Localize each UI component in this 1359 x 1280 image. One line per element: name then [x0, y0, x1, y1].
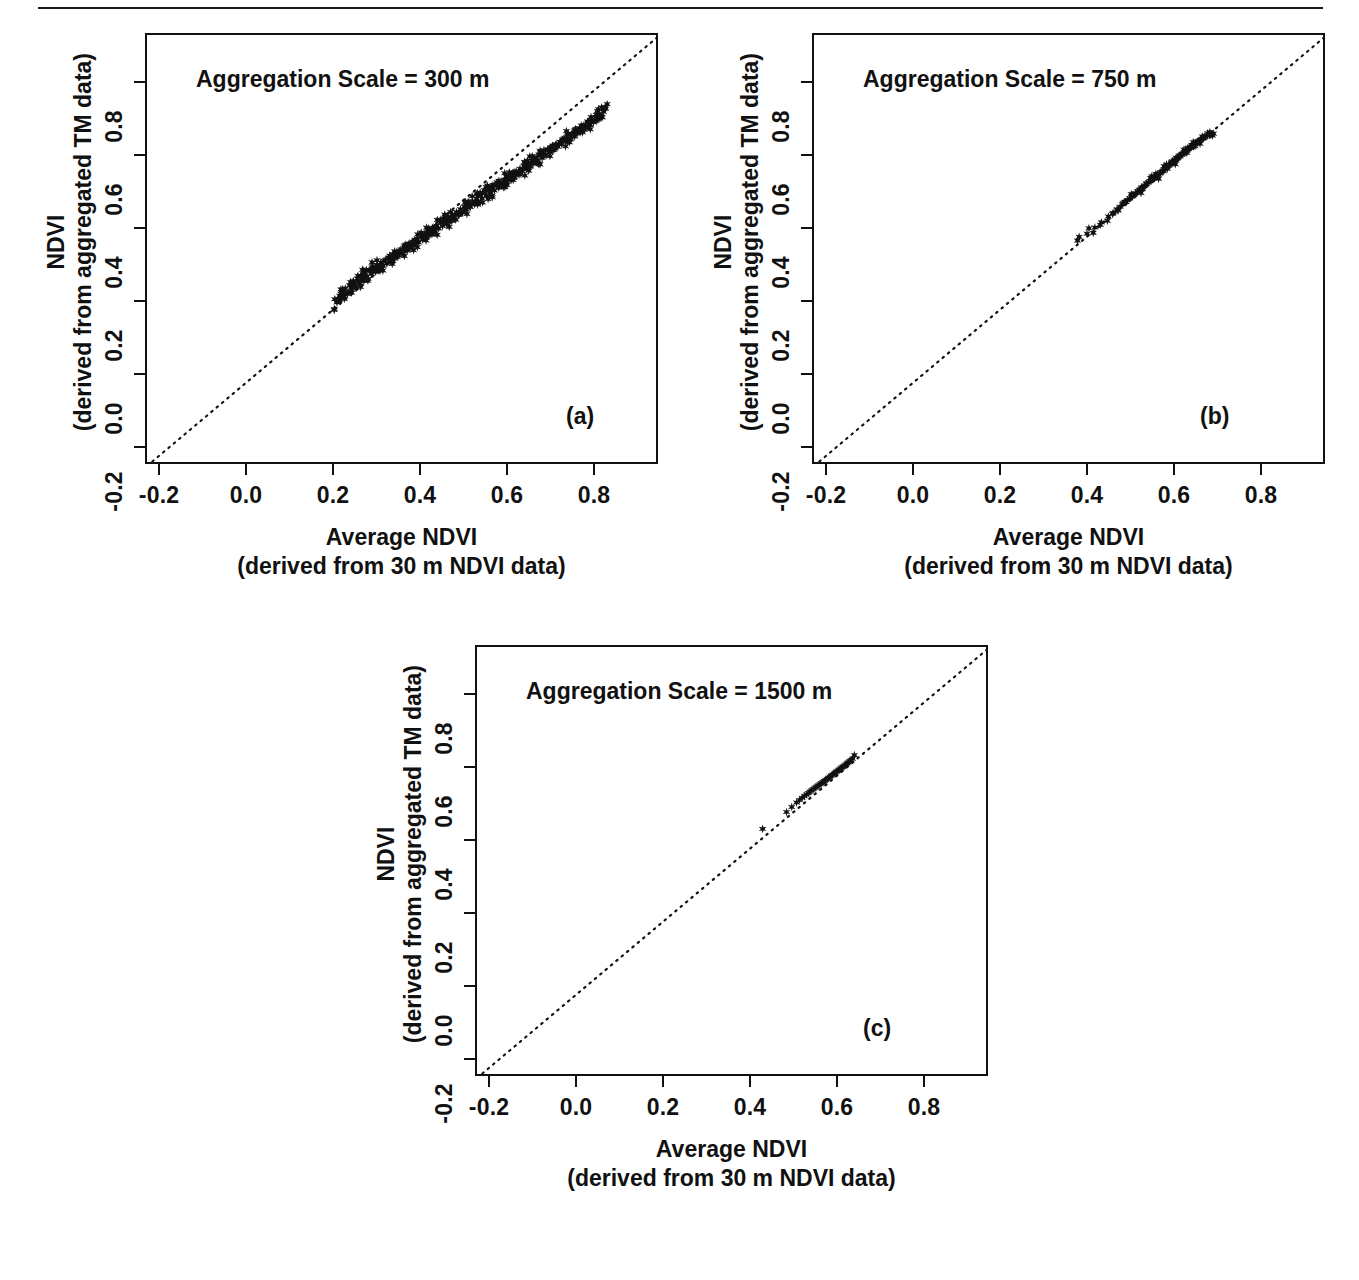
y-tick-c-0	[464, 1058, 475, 1060]
x-tick-c-2	[662, 1076, 664, 1087]
y-tick-a-5	[134, 81, 145, 83]
x-tick-b-0	[825, 464, 827, 475]
scatter-points-b	[1074, 128, 1218, 245]
y-axis-title-b-line1: NDVI	[710, 27, 737, 457]
x-tick-a-4	[506, 464, 508, 475]
x-tick-label-b-0: -0.2	[781, 482, 871, 509]
plot-frame-a	[145, 33, 658, 464]
reference-line-1to1	[477, 647, 986, 1074]
y-tick-c-1	[464, 985, 475, 987]
y-tick-label-a-5: 0.8	[101, 84, 128, 170]
x-tick-label-c-3: 0.4	[705, 1094, 795, 1121]
reference-line-1to1	[814, 35, 1323, 462]
x-tick-label-b-1: 0.0	[868, 482, 958, 509]
x-tick-c-1	[575, 1076, 577, 1087]
y-tick-a-3	[134, 227, 145, 229]
y-tick-b-1	[801, 373, 812, 375]
data-point	[1083, 229, 1091, 238]
x-tick-label-c-0: -0.2	[444, 1094, 534, 1121]
panel-c: -0.2 0.0 0.2 0.4 0.6 0.8 NDVI (derived f…	[330, 612, 1020, 1232]
y-axis-title-c: NDVI (derived from aggregated TM data)	[373, 639, 427, 1069]
x-axis-title-a: Average NDVI (derived from 30 m NDVI dat…	[145, 523, 658, 581]
x-tick-b-3	[1086, 464, 1088, 475]
y-tick-a-2	[134, 300, 145, 302]
panel-b: -0.2 0.0 0.2 0.4 0.6 0.8 NDVI (derived f…	[667, 0, 1357, 600]
annotation-aggregation-scale-c: Aggregation Scale = 1500 m	[526, 678, 832, 705]
x-tick-label-a-0: -0.2	[114, 482, 204, 509]
x-tick-label-c-4: 0.6	[792, 1094, 882, 1121]
x-tick-c-5	[923, 1076, 925, 1087]
y-tick-c-2	[464, 912, 475, 914]
y-tick-label-c-5: 0.8	[431, 696, 458, 782]
y-tick-a-1	[134, 373, 145, 375]
y-axis-title-a-line2: (derived from aggregated TM data)	[70, 27, 97, 457]
x-axis-title-a-line1: Average NDVI	[145, 523, 658, 552]
x-tick-label-a-4: 0.6	[462, 482, 552, 509]
x-axis-title-c-line2: (derived from 30 m NDVI data)	[475, 1164, 988, 1193]
x-tick-label-c-5: 0.8	[879, 1094, 969, 1121]
x-axis-title-b: Average NDVI (derived from 30 m NDVI dat…	[812, 523, 1325, 581]
x-tick-c-4	[836, 1076, 838, 1087]
x-tick-label-a-2: 0.2	[288, 482, 378, 509]
x-tick-a-1	[245, 464, 247, 475]
y-axis-title-b-line2: (derived from aggregated TM data)	[737, 27, 764, 457]
x-tick-label-a-3: 0.4	[375, 482, 465, 509]
y-tick-b-2	[801, 300, 812, 302]
x-tick-label-c-2: 0.2	[618, 1094, 708, 1121]
annotation-aggregation-scale-b: Aggregation Scale = 750 m	[863, 66, 1156, 93]
y-tick-c-5	[464, 693, 475, 695]
x-tick-label-a-5: 0.8	[549, 482, 639, 509]
y-axis-title-c-line1: NDVI	[373, 639, 400, 1069]
y-tick-b-5	[801, 81, 812, 83]
y-tick-c-3	[464, 839, 475, 841]
x-tick-b-4	[1173, 464, 1175, 475]
annotation-aggregation-scale-a: Aggregation Scale = 300 m	[196, 66, 489, 93]
scatter-canvas-c	[477, 647, 986, 1074]
scatter-points-a	[330, 100, 611, 315]
x-tick-b-2	[999, 464, 1001, 475]
x-tick-label-b-2: 0.2	[955, 482, 1045, 509]
x-tick-a-0	[158, 464, 160, 475]
data-point	[759, 825, 767, 834]
x-axis-title-c-line1: Average NDVI	[475, 1135, 988, 1164]
y-tick-b-4	[801, 154, 812, 156]
plot-frame-b	[812, 33, 1325, 464]
y-tick-c-4	[464, 766, 475, 768]
panel-a: -0.2 0.0 0.2 0.4 0.6 0.8 NDVI (derived f…	[0, 0, 680, 600]
y-axis-title-a: NDVI (derived from aggregated TM data)	[43, 27, 97, 457]
x-tick-b-5	[1260, 464, 1262, 475]
x-tick-label-a-1: 0.0	[201, 482, 291, 509]
panel-letter-a: (a)	[566, 403, 594, 430]
y-axis-title-a-line1: NDVI	[43, 27, 70, 457]
y-tick-b-3	[801, 227, 812, 229]
x-tick-c-0	[488, 1076, 490, 1087]
x-axis-title-b-line1: Average NDVI	[812, 523, 1325, 552]
scatter-canvas-a	[147, 35, 656, 462]
y-tick-a-4	[134, 154, 145, 156]
x-tick-label-c-1: 0.0	[531, 1094, 621, 1121]
y-axis-title-b: NDVI (derived from aggregated TM data)	[710, 27, 764, 457]
x-axis-title-c: Average NDVI (derived from 30 m NDVI dat…	[475, 1135, 988, 1193]
x-tick-a-2	[332, 464, 334, 475]
panel-letter-b: (b)	[1200, 403, 1229, 430]
y-axis-title-c-line2: (derived from aggregated TM data)	[400, 639, 427, 1069]
x-tick-label-b-5: 0.8	[1216, 482, 1306, 509]
scatter-canvas-b	[814, 35, 1323, 462]
x-tick-label-b-4: 0.6	[1129, 482, 1219, 509]
y-tick-label-b-5: 0.8	[768, 84, 795, 170]
scatter-points-c	[759, 751, 858, 834]
x-tick-label-b-3: 0.4	[1042, 482, 1132, 509]
plot-frame-c	[475, 645, 988, 1076]
panel-letter-c: (c)	[863, 1015, 891, 1042]
y-tick-b-0	[801, 446, 812, 448]
x-axis-title-b-line2: (derived from 30 m NDVI data)	[812, 552, 1325, 581]
x-tick-c-3	[749, 1076, 751, 1087]
x-tick-a-3	[419, 464, 421, 475]
x-tick-b-1	[912, 464, 914, 475]
x-tick-a-5	[593, 464, 595, 475]
y-tick-a-0	[134, 446, 145, 448]
x-axis-title-a-line2: (derived from 30 m NDVI data)	[145, 552, 658, 581]
